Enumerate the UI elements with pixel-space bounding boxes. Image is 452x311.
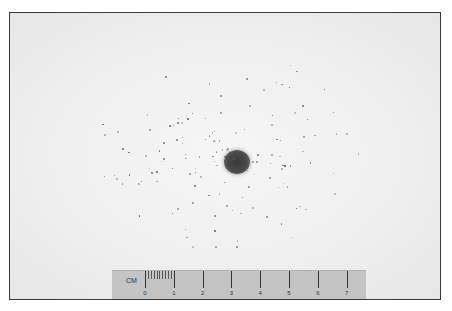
residue-speck	[128, 152, 129, 153]
residue-speck	[159, 150, 160, 151]
residue-speck	[117, 131, 118, 132]
ruler-minor-tick	[159, 271, 160, 279]
residue-speck	[212, 132, 213, 133]
residue-speck	[222, 149, 223, 150]
residue-speck	[220, 112, 222, 114]
residue-speck	[242, 197, 243, 198]
residue-speck	[208, 195, 209, 196]
residue-speck	[299, 206, 300, 207]
ruler-major-tick	[145, 271, 146, 288]
residue-speck	[139, 215, 140, 216]
residue-speck	[163, 142, 165, 144]
residue-speck	[305, 209, 306, 210]
photo-frame: CM 01234567	[9, 12, 441, 300]
residue-speck	[187, 118, 188, 119]
residue-speck	[165, 76, 167, 78]
residue-speck	[240, 213, 241, 214]
residue-speck	[176, 139, 178, 141]
residue-speck	[271, 154, 273, 156]
residue-speck	[334, 193, 336, 195]
residue-speck	[302, 105, 303, 106]
residue-speck	[302, 151, 303, 152]
residue-speck	[236, 246, 238, 248]
residue-speck	[290, 165, 291, 166]
residue-speck	[252, 161, 254, 163]
residue-speck	[138, 183, 139, 184]
residue-speck	[182, 143, 183, 144]
residue-speck	[296, 208, 297, 209]
residue-speck	[282, 165, 283, 166]
residue-speck	[281, 223, 282, 224]
ruler-major-tick	[203, 271, 204, 288]
residue-speck	[276, 139, 277, 140]
residue-speck	[324, 89, 325, 90]
residue-speck	[205, 139, 206, 140]
residue-speck	[303, 136, 305, 138]
residue-speck	[209, 135, 210, 136]
residue-speck	[114, 175, 115, 176]
ruler-major-tick	[318, 271, 319, 288]
residue-speck	[215, 246, 217, 248]
residue-speck	[188, 103, 189, 104]
residue-speck	[199, 156, 200, 157]
residue-speck	[219, 140, 220, 141]
residue-speck	[279, 156, 280, 157]
ruler-minor-tick	[148, 271, 149, 279]
residue-speck	[214, 230, 215, 231]
residue-speck	[172, 168, 173, 169]
residue-speck	[333, 173, 334, 174]
ruler-unit-label: CM	[126, 277, 137, 284]
residue-speck	[141, 181, 142, 182]
residue-speck	[214, 131, 215, 132]
residue-speck	[181, 122, 183, 124]
residue-speck	[212, 156, 213, 157]
residue-speck	[186, 237, 187, 238]
residue-speck	[149, 168, 150, 169]
residue-speck	[177, 208, 179, 210]
residue-speck	[287, 186, 288, 187]
residue-speck	[281, 168, 283, 170]
residue-speck	[247, 170, 248, 171]
residue-speck	[358, 153, 359, 154]
residue-speck	[289, 87, 290, 88]
ruler-minor-tick	[151, 271, 152, 279]
residue-speck	[256, 161, 258, 163]
residue-speck	[169, 125, 171, 127]
residue-speck	[156, 171, 158, 173]
residue-speck	[205, 118, 206, 119]
residue-speck	[147, 114, 148, 115]
ruler-minor-tick	[171, 271, 172, 279]
residue-speck	[185, 154, 186, 155]
residue-speck	[195, 172, 196, 173]
residue-speck	[266, 216, 268, 218]
residue-speck	[163, 158, 165, 160]
residue-speck	[307, 119, 308, 120]
residue-speck	[189, 173, 191, 175]
residue-speck	[284, 183, 285, 184]
residue-speck	[192, 113, 193, 114]
residue-speck	[233, 157, 235, 159]
residue-speck	[244, 129, 245, 130]
residue-speck	[291, 237, 292, 238]
ruler-tick-label: 0	[143, 290, 146, 296]
residue-speck	[214, 215, 216, 217]
ruler-tick-label: 7	[345, 290, 348, 296]
residue-speck	[156, 181, 157, 182]
residue-speck	[336, 133, 337, 134]
residue-speck	[185, 158, 186, 159]
residue-speck	[227, 148, 229, 150]
residue-speck	[226, 205, 228, 207]
scale-ruler: CM 01234567	[112, 270, 366, 300]
residue-speck	[177, 122, 178, 123]
ruler-minor-tick	[165, 271, 166, 279]
residue-speck	[200, 176, 202, 178]
residue-speck	[161, 161, 162, 162]
residue-speck	[186, 116, 187, 117]
residue-speck	[220, 95, 222, 97]
residue-speck	[276, 82, 277, 83]
residue-speck	[254, 174, 255, 175]
ruler-tick-label: 5	[287, 290, 290, 296]
residue-speck	[216, 165, 217, 166]
residue-speck	[209, 83, 210, 84]
residue-speck	[333, 112, 334, 113]
